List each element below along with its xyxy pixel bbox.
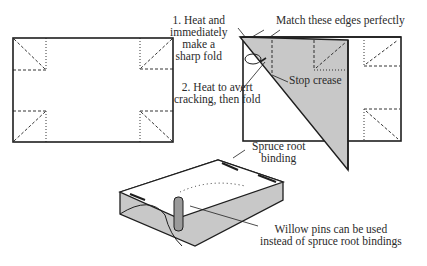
assembled-basket [120, 150, 283, 246]
step2-label: 2. Heat to avert cracking, then fold [174, 81, 261, 105]
stop-crease-label: Stop crease [289, 74, 342, 86]
flat-bark-sheet [13, 38, 173, 142]
match-edges-label: Match these edges perfectly [276, 14, 405, 26]
step1-label: 1. Heat and immediately make a sharp fol… [170, 14, 227, 62]
spruce-root-label: Spruce root binding [252, 140, 305, 164]
willow-pins-label: Willow pins can be used instead of spruc… [260, 223, 402, 247]
